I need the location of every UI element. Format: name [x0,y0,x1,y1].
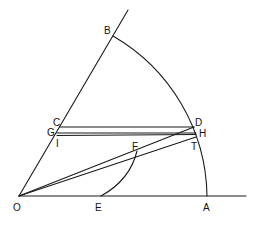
arc-BA [113,36,207,196]
label-A: A [203,202,210,213]
label-D: D [195,117,202,128]
ray-OB [19,10,128,196]
label-F: F [132,141,138,152]
label-I: I [56,138,59,149]
label-O: O [13,202,21,213]
label-G: G [47,127,55,138]
label-E: E [95,202,102,213]
label-T: T [191,141,197,152]
geometry-diagram: B C D G H I T F O E A [0,0,258,225]
label-H: H [199,128,206,139]
segment-OD [19,127,194,196]
segment-OT [19,137,196,196]
arc-EF [101,151,137,196]
diagram-canvas: B C D G H I T F O E A [0,0,258,225]
label-B: B [104,25,111,36]
